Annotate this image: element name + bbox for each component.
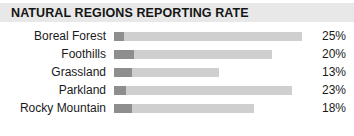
percentage-value: 20% xyxy=(304,47,354,61)
bar-track xyxy=(114,63,304,81)
bar-dark-segment xyxy=(114,68,132,77)
table-row: Grassland 13% xyxy=(0,63,354,81)
bar-dark-segment xyxy=(114,104,132,113)
table-row: Parkland 23% xyxy=(0,81,354,99)
bar-light-segment xyxy=(132,104,254,113)
percentage-value: 18% xyxy=(304,101,354,115)
region-label: Foothills xyxy=(0,47,114,61)
bar-light-segment xyxy=(132,68,219,77)
bar-dark-segment xyxy=(114,50,134,59)
bar-light-segment xyxy=(126,86,292,95)
reporting-rate-chart-panel: NATURAL REGIONS REPORTING RATE Boreal Fo… xyxy=(0,0,354,136)
region-label: Grassland xyxy=(0,65,114,79)
region-label: Rocky Mountain xyxy=(0,101,114,115)
bar-light-segment xyxy=(124,32,302,41)
table-row: Boreal Forest 25% xyxy=(0,27,354,45)
table-row: Rocky Mountain 18% xyxy=(0,99,354,117)
bar xyxy=(114,104,254,113)
bar-track xyxy=(114,99,304,117)
chart-header-band: NATURAL REGIONS REPORTING RATE xyxy=(0,3,354,22)
bar-light-segment xyxy=(134,50,272,59)
bar-track xyxy=(114,27,304,45)
percentage-value: 23% xyxy=(304,83,354,97)
region-label: Parkland xyxy=(0,83,114,97)
page-title: NATURAL REGIONS REPORTING RATE xyxy=(11,6,249,20)
region-label: Boreal Forest xyxy=(0,29,114,43)
table-row: Foothills 20% xyxy=(0,45,354,63)
percentage-value: 13% xyxy=(304,65,354,79)
bar xyxy=(114,32,302,41)
chart-rows: Boreal Forest 25% Foothills 20% Grasslan… xyxy=(0,27,354,117)
percentage-value: 25% xyxy=(304,29,354,43)
bar xyxy=(114,86,292,95)
bar xyxy=(114,68,219,77)
bar xyxy=(114,50,272,59)
bar-dark-segment xyxy=(114,32,124,41)
bar-track xyxy=(114,81,304,99)
bar-track xyxy=(114,45,304,63)
bar-dark-segment xyxy=(114,86,126,95)
